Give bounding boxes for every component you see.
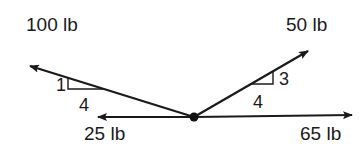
force-label-100lb: 100 lb bbox=[26, 15, 78, 34]
force-label-50lb: 50 lb bbox=[286, 15, 327, 34]
slope-label-left-rise: 1 bbox=[56, 76, 66, 94]
slope-label-right-rise: 3 bbox=[279, 70, 289, 88]
slope-label-right-run: 4 bbox=[253, 93, 263, 111]
force-vector-50lb bbox=[194, 51, 308, 117]
force-vector-65lb bbox=[194, 115, 352, 117]
force-vector-100lb bbox=[30, 66, 194, 117]
slope-label-left-run: 4 bbox=[79, 96, 89, 114]
force-diagram: 100 lb 50 lb 25 lb 65 lb 1 4 3 4 bbox=[0, 0, 359, 152]
force-label-25lb: 25 lb bbox=[84, 124, 125, 143]
origin-point bbox=[190, 113, 199, 122]
force-label-65lb: 65 lb bbox=[300, 124, 341, 143]
